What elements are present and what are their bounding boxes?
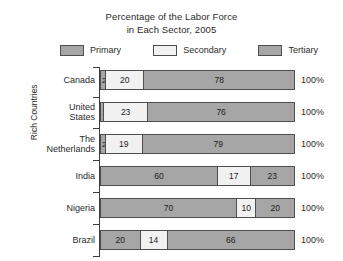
bar-value-secondary: 17 <box>229 171 238 181</box>
row-total-canada: 100% <box>301 70 324 90</box>
legend-item-primary: Primary <box>60 45 121 56</box>
legend-swatch-primary <box>60 45 84 56</box>
bar-value-primary: 70 <box>164 203 173 213</box>
bar-value-primary: 20 <box>116 235 125 245</box>
bar-value-secondary: 10 <box>242 203 251 213</box>
row-label-india-line-1: India <box>75 171 95 181</box>
row-label-the-netherlands-line-2: Netherlands <box>22 144 95 154</box>
bar-the-netherlands: 2 19 79 <box>100 134 295 154</box>
bar-segment-tertiary: 23 <box>250 167 294 185</box>
row-label-united-states-line-1: United <box>69 102 95 112</box>
bar-segment-secondary: 17 <box>217 167 250 185</box>
row-label-the-netherlands-line-1: The <box>79 134 95 144</box>
row-label-the-netherlands: The Netherlands <box>22 134 95 154</box>
table-row: United States 1 23 76 100% <box>0 102 343 122</box>
chart-title: Percentage of the Labor Force in Each Se… <box>0 11 343 36</box>
bar-segment-secondary: 19 <box>105 135 142 153</box>
bar-value-tertiary: 23 <box>268 171 277 181</box>
bar-brazil: 20 14 66 <box>100 230 295 250</box>
bar-value-secondary: 20 <box>120 75 129 85</box>
row-label-canada: Canada <box>22 75 95 85</box>
plot-area: Rich Countries Lower- Income Countries C… <box>0 64 343 261</box>
chart-legend: Primary Secondary Tertiary <box>60 43 318 57</box>
table-row: The Netherlands 2 19 79 100% <box>0 134 343 154</box>
bar-segment-secondary: 20 <box>105 71 144 89</box>
bar-value-primary: 60 <box>154 171 163 181</box>
legend-label-primary: Primary <box>90 45 121 55</box>
bar-india: 60 17 23 <box>100 166 295 186</box>
legend-label-secondary: Secondary <box>183 45 226 55</box>
row-label-united-states: United States <box>22 102 95 122</box>
bar-segment-primary: 20 <box>101 231 140 249</box>
bar-value-secondary: 14 <box>149 235 158 245</box>
table-row: Nigeria 70 10 20 100% <box>0 198 343 218</box>
legend-swatch-tertiary <box>258 45 282 56</box>
bar-value-tertiary: 76 <box>216 107 225 117</box>
chart-title-line-1: Percentage of the Labor Force <box>0 11 343 24</box>
row-label-nigeria-line-1: Nigeria <box>66 203 95 213</box>
chart-title-line-2: in Each Sector, 2005 <box>0 24 343 37</box>
bar-value-tertiary: 78 <box>214 75 223 85</box>
row-total-india: 100% <box>301 166 324 186</box>
bar-value-secondary: 23 <box>121 107 130 117</box>
row-total-united-states: 100% <box>301 102 324 122</box>
bar-segment-secondary: 10 <box>236 199 255 217</box>
bar-nigeria: 70 10 20 <box>100 198 295 218</box>
legend-swatch-secondary <box>153 45 177 56</box>
table-row: Canada 2 20 78 100% <box>0 70 343 90</box>
bar-value-secondary: 19 <box>119 139 128 149</box>
bar-segment-tertiary: 66 <box>167 231 294 249</box>
bar-segment-tertiary: 79 <box>142 135 294 153</box>
row-label-nigeria: Nigeria <box>22 203 95 213</box>
bar-segment-tertiary: 20 <box>255 199 294 217</box>
row-total-brazil: 100% <box>301 230 324 250</box>
row-label-united-states-line-2: States <box>22 112 95 122</box>
bar-canada: 2 20 78 <box>100 70 295 90</box>
axis-tick-6 <box>93 256 99 257</box>
y-axis-spine <box>99 67 100 257</box>
row-total-the-netherlands: 100% <box>301 134 324 154</box>
row-label-brazil-line-1: Brazil <box>72 235 95 245</box>
row-label-brazil: Brazil <box>22 235 95 245</box>
legend-item-secondary: Secondary <box>153 45 226 56</box>
table-row: Brazil 20 14 66 100% <box>0 230 343 250</box>
row-label-india: India <box>22 171 95 181</box>
bar-segment-primary: 70 <box>101 199 236 217</box>
bar-segment-tertiary: 76 <box>147 103 294 121</box>
chart-figure: Percentage of the Labor Force in Each Se… <box>0 0 343 261</box>
bar-value-tertiary: 20 <box>270 203 279 213</box>
bar-value-tertiary: 66 <box>226 235 235 245</box>
group-label-lower-income-countries-line-2: Income Countries <box>21 254 32 261</box>
group-label-lower-income-countries-line-1: Lower- <box>11 254 22 261</box>
bar-segment-primary: 60 <box>101 167 217 185</box>
legend-label-tertiary: Tertiary <box>288 45 318 55</box>
row-label-canada-line-1: Canada <box>63 75 95 85</box>
bar-segment-tertiary: 78 <box>143 71 294 89</box>
bar-segment-secondary: 23 <box>103 103 147 121</box>
table-row: India 60 17 23 100% <box>0 166 343 186</box>
bar-value-tertiary: 79 <box>214 139 223 149</box>
bar-united-states: 1 23 76 <box>100 102 295 122</box>
legend-item-tertiary: Tertiary <box>258 45 318 56</box>
bar-segment-secondary: 14 <box>140 231 167 249</box>
row-total-nigeria: 100% <box>301 198 324 218</box>
